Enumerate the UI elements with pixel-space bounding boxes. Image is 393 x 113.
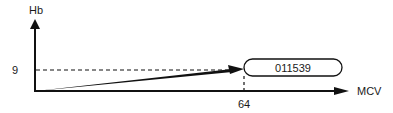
point-label-text: 011539 xyxy=(244,59,342,76)
y-tick-label: 9 xyxy=(12,65,18,76)
vector-arrow-shaft xyxy=(36,69,232,91)
vector-arrowhead-icon xyxy=(228,65,244,74)
y-axis-label: Hb xyxy=(29,5,43,16)
y-axis-arrowhead-icon xyxy=(30,19,40,29)
x-axis-arrowhead-icon xyxy=(334,87,349,95)
x-axis-label: MCV xyxy=(357,86,381,97)
diagram-canvas xyxy=(0,0,393,113)
x-tick-label: 64 xyxy=(238,99,250,110)
